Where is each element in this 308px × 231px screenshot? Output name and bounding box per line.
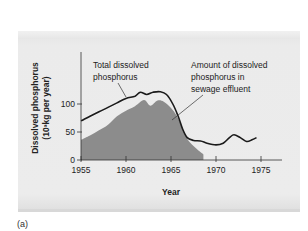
x-tick-label: 1970 [207, 165, 226, 175]
annotation-sewage-label: phosphorus in [191, 72, 245, 82]
x-tick-label: 1955 [72, 165, 91, 175]
y-axis-title: Dissolved phosphorus [30, 62, 40, 154]
annotation-sewage-label: Amount of dissolved [191, 60, 268, 70]
annotation-total-label: Total dissolved [93, 60, 149, 70]
y-tick-label: 100 [61, 99, 75, 109]
phosphorus-chart: 19551960196519701975050100YearDissolved … [0, 0, 308, 231]
y-tick-label: 0 [70, 155, 75, 165]
x-axis-title: Year [162, 187, 181, 197]
annotation-sewage-leader [172, 95, 203, 120]
annotation-total-label: phosphorus [93, 72, 137, 82]
x-tick-label: 1965 [162, 165, 181, 175]
x-tick-label: 1975 [252, 165, 271, 175]
annotation-sewage-label: sewage effluent [191, 84, 251, 94]
y-axis-units: (10³kg per year) [41, 76, 51, 139]
annotation-total-leader [118, 83, 126, 97]
figure-caption: (a) [17, 219, 28, 229]
y-tick-label: 50 [66, 127, 76, 137]
x-tick-label: 1960 [117, 165, 136, 175]
